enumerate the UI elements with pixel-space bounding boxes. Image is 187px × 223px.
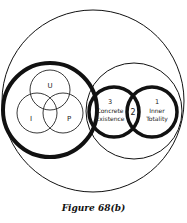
circle-u <box>30 70 70 110</box>
circle-i <box>17 93 57 133</box>
label-1-number: 1 <box>155 98 159 106</box>
label-1-line1: Inner <box>149 107 165 114</box>
label-3-line1: Concrete <box>96 107 123 114</box>
label-2-number: 2 <box>130 108 135 117</box>
figure-caption: Figure 68(b) <box>0 203 187 213</box>
label-i: I <box>30 115 32 123</box>
label-1-line2: Totality <box>145 115 168 123</box>
label-3-line2: Existence <box>96 115 125 122</box>
diagram-canvas: U I P 3 Concrete Existence 2 1 Inner Tot… <box>0 0 187 223</box>
label-u: U <box>47 82 52 90</box>
label-3-number: 3 <box>108 98 112 106</box>
circle-p <box>43 93 83 133</box>
label-p: P <box>67 115 71 123</box>
